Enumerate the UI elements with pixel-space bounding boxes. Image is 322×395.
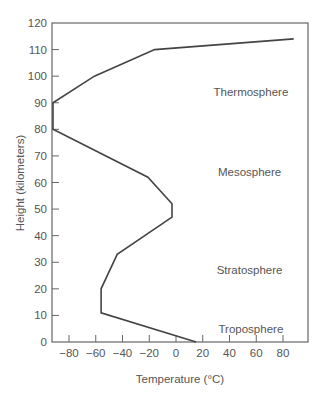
x-axis-title: Temperature (°C) [136,373,224,385]
y-tick-label: 30 [34,256,47,268]
x-tick-label: −20 [139,347,159,359]
layer-label-mesosphere: Mesosphere [218,166,281,178]
y-tick-label: 50 [34,203,47,215]
temperature-height-chart: 0102030405060708090100110120 −80−60−40−2… [0,0,322,395]
x-tick-label: −80 [59,347,79,359]
y-tick-label: 120 [28,17,47,29]
plot-frame [52,23,308,342]
layer-label-stratosphere: Stratosphere [217,264,283,276]
y-tick-label: 110 [29,44,47,56]
x-tick-label: −40 [113,347,133,359]
y-tick-label: 10 [34,309,47,321]
y-tick-label: 20 [34,283,47,295]
x-tick-label: −60 [86,347,106,359]
x-axis-ticks: −80−60−40−20020406080 [59,335,289,359]
y-tick-label: 100 [28,70,47,82]
y-axis-title: Height (kilometers) [14,135,26,232]
y-axis-ticks: 0102030405060708090100110120 [28,17,59,348]
x-tick-label: 40 [223,347,236,359]
x-tick-label: 80 [277,347,290,359]
layer-label-thermosphere: Thermosphere [214,86,289,98]
layer-label-troposphere: Troposphere [219,323,284,335]
x-tick-label: 0 [173,347,179,359]
y-tick-label: 60 [34,177,47,189]
y-tick-label: 0 [41,336,47,348]
plot-border [52,23,308,342]
atmosphere-layer-labels: ThermosphereMesosphereStratosphereTropos… [214,86,289,335]
y-tick-label: 40 [34,230,47,242]
x-tick-label: 20 [196,347,209,359]
y-tick-label: 80 [34,123,47,135]
y-tick-label: 90 [34,97,47,109]
temperature-profile-line [53,39,294,342]
y-tick-label: 70 [34,150,47,162]
x-tick-label: 60 [250,347,263,359]
